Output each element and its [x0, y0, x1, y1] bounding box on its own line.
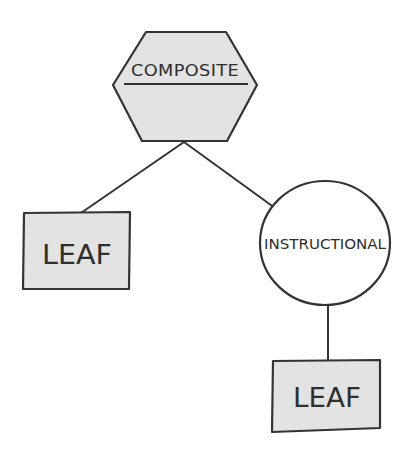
composite-label: COMPOSITE: [131, 62, 239, 80]
node-instructional: INSTRUCTIONAL: [260, 181, 390, 305]
node-leaf-bottom: LEAF: [272, 360, 380, 432]
leaf-left-label: LEAF: [42, 239, 112, 270]
node-leaf-left: LEAF: [23, 212, 130, 289]
node-composite: COMPOSITE: [113, 32, 257, 141]
leaf-bottom-label: LEAF: [293, 382, 361, 413]
composite-pattern-diagram: COMPOSITE LEAF INSTRUCTIONAL LEAF: [0, 0, 412, 453]
edge-composite-to-leaf-left: [78, 142, 184, 215]
hexagon-shape: [113, 32, 257, 141]
edge-composite-to-instructional: [184, 142, 275, 208]
instructional-label: INSTRUCTIONAL: [264, 236, 386, 252]
